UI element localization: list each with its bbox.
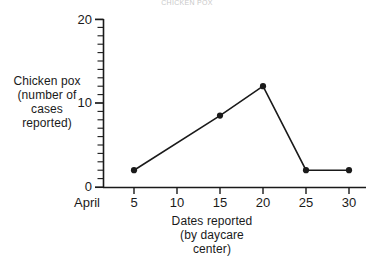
x-tick-label-10: 10 — [157, 195, 197, 210]
data-point-april-25 — [303, 167, 309, 173]
x-tick-label-20: 20 — [243, 195, 283, 210]
data-point-markers — [131, 83, 352, 173]
x-tick-label-april: April — [61, 195, 113, 210]
x-axis-ticks — [134, 188, 349, 195]
x-axis-title: Dates reported (by daycare center) — [136, 214, 288, 256]
y-axis-title-line-1: Chicken pox — [4, 74, 90, 88]
x-axis-title-line-1: Dates reported — [136, 214, 288, 228]
y-axis-title-line-4: reported) — [4, 116, 90, 130]
data-point-april-30 — [346, 167, 352, 173]
data-point-april-20 — [260, 83, 266, 89]
x-axis-title-line-2: (by daycare — [136, 228, 288, 242]
data-point-april-15 — [217, 113, 223, 119]
x-tick-label-30: 30 — [329, 195, 368, 210]
data-line-chicken-pox — [134, 86, 349, 170]
y-axis-title-line-3: cases — [4, 102, 90, 116]
y-tick-label-20: 20 — [62, 12, 92, 27]
x-tick-label-15: 15 — [200, 195, 240, 210]
data-point-april-5 — [131, 167, 137, 173]
chart-figure: CHICKEN POX — [0, 0, 368, 261]
x-tick-label-25: 25 — [286, 195, 326, 210]
y-tick-label-0: 0 — [62, 179, 92, 194]
y-axis-title-line-2: (number of — [4, 88, 90, 102]
x-axis-title-line-3: center) — [136, 242, 288, 256]
y-axis-title: Chicken pox (number of cases reported) — [4, 74, 90, 131]
x-tick-label-5: 5 — [114, 195, 154, 210]
